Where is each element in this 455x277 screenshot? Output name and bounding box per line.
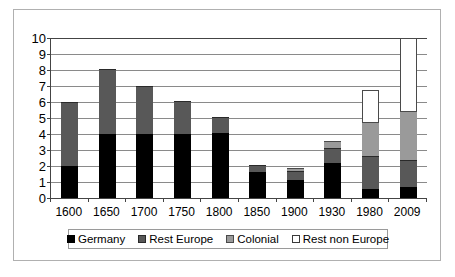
bar-segment-1650-rest-europe[interactable] <box>99 69 116 134</box>
stacked-bar-1850[interactable] <box>249 165 266 198</box>
bar-segment-1930-rest-europe[interactable] <box>324 148 341 163</box>
chart-legend: GermanyRest EuropeColonialRest non Europ… <box>68 229 388 249</box>
y-axis-tick-label: 9 <box>20 48 46 61</box>
x-axis-tick-mark <box>276 198 277 202</box>
x-axis-tick-label-1650: 1650 <box>88 204 126 222</box>
y-axis-tick-label: 6 <box>20 96 46 109</box>
germany-swatch <box>67 235 75 243</box>
y-axis-tick-label: 8 <box>20 64 46 77</box>
bar-segment-2009-germany[interactable] <box>400 187 417 198</box>
x-axis-tick-labels: 1600165017001750180018501900193019802009 <box>50 204 426 222</box>
legend-item-rest-non-europe[interactable]: Rest non Europe <box>292 233 389 245</box>
bar-slot-2009 <box>389 38 427 198</box>
bar-segment-1750-rest-europe[interactable] <box>174 101 191 134</box>
bar-segment-1900-germany[interactable] <box>287 180 304 198</box>
y-axis-tick-label: 0 <box>20 192 46 205</box>
x-axis-tick-label-1600: 1600 <box>50 204 88 222</box>
bar-segment-1930-germany[interactable] <box>324 163 341 198</box>
bar-segment-1850-rest-europe[interactable] <box>249 165 266 172</box>
legend-label: Rest Europe <box>149 233 213 245</box>
legend-item-rest-europe[interactable]: Rest Europe <box>138 233 213 245</box>
bar-slot-1650 <box>89 38 127 198</box>
x-axis-tick-mark <box>50 198 51 202</box>
x-axis-tick-label-1900: 1900 <box>276 204 314 222</box>
x-axis-tick-mark <box>200 198 201 202</box>
bar-segment-1800-rest-europe[interactable] <box>212 117 229 133</box>
stacked-bar-1930[interactable] <box>324 141 341 198</box>
bar-segment-1700-rest-europe[interactable] <box>136 86 153 134</box>
rest-europe-swatch <box>138 235 146 243</box>
x-axis-tick-mark <box>88 198 89 202</box>
x-axis-tick-mark <box>125 198 126 202</box>
bar-slot-1850 <box>239 38 277 198</box>
bar-segment-1600-rest-europe[interactable] <box>61 102 78 166</box>
bar-segment-1980-germany[interactable] <box>362 189 379 198</box>
bar-segment-2009-rest-non-europe[interactable] <box>400 38 417 111</box>
bar-slot-1600 <box>51 38 89 198</box>
y-axis-tick-label: 10 <box>20 32 46 45</box>
bar-slot-1930 <box>314 38 352 198</box>
bar-segment-2009-colonial[interactable] <box>400 111 417 161</box>
bar-segment-1750-germany[interactable] <box>174 134 191 198</box>
bar-segment-1900-rest-europe[interactable] <box>287 171 304 181</box>
x-axis-tick-label-1750: 1750 <box>163 204 201 222</box>
stacked-bar-1700[interactable] <box>136 86 153 198</box>
x-axis-tick-label-1800: 1800 <box>200 204 238 222</box>
plot-area <box>50 38 427 199</box>
x-axis-tick-label-1980: 1980 <box>351 204 389 222</box>
legend-item-germany[interactable]: Germany <box>67 233 125 245</box>
legend-item-colonial[interactable]: Colonial <box>226 233 279 245</box>
bar-segment-2009-rest-europe[interactable] <box>400 160 417 186</box>
bar-slot-1900 <box>277 38 315 198</box>
bar-segment-1600-germany[interactable] <box>61 166 78 198</box>
bar-segment-1650-germany[interactable] <box>99 134 116 198</box>
bar-segment-1980-rest-europe[interactable] <box>362 156 379 189</box>
bar-segment-1700-germany[interactable] <box>136 134 153 198</box>
chart-frame: 109876543210 160016501700175018001850190… <box>13 9 441 261</box>
legend-label: Colonial <box>237 233 279 245</box>
stacked-bar-2009[interactable] <box>400 38 417 198</box>
y-axis-tick-label: 7 <box>20 80 46 93</box>
bar-slot-1700 <box>126 38 164 198</box>
bar-segment-1800-germany[interactable] <box>212 133 229 198</box>
colonial-swatch <box>226 235 234 243</box>
y-axis-tick-label: 1 <box>20 176 46 189</box>
stacked-bar-1650[interactable] <box>99 69 116 198</box>
rest-non-europe-swatch <box>292 235 300 243</box>
bar-slot-1800 <box>201 38 239 198</box>
x-axis-tick-label-1930: 1930 <box>313 204 351 222</box>
y-axis-tick-labels: 109876543210 <box>20 38 46 206</box>
chart-plot-wrapper: 109876543210 160016501700175018001850190… <box>14 10 442 262</box>
x-axis-tick-mark <box>163 198 164 202</box>
bar-slot-1980 <box>352 38 390 198</box>
y-axis-tick-label: 5 <box>20 112 46 125</box>
stacked-bar-1800[interactable] <box>212 117 229 198</box>
x-axis-tick-mark <box>238 198 239 202</box>
bar-segment-1980-colonial[interactable] <box>362 122 379 156</box>
x-axis-tick-label-2009: 2009 <box>388 204 426 222</box>
x-axis-tick-mark <box>351 198 352 202</box>
y-axis-tick-label: 3 <box>20 144 46 157</box>
y-axis-tick-label: 4 <box>20 128 46 141</box>
stacked-bar-1900[interactable] <box>287 168 304 198</box>
x-axis-tick-marks <box>50 198 426 203</box>
stacked-bar-1980[interactable] <box>362 90 379 198</box>
x-axis-tick-label-1700: 1700 <box>125 204 163 222</box>
x-axis-tick-mark <box>313 198 314 202</box>
legend-label: Germany <box>78 233 125 245</box>
x-axis-tick-label-1850: 1850 <box>238 204 276 222</box>
x-axis-tick-mark <box>426 198 427 202</box>
legend-label: Rest non Europe <box>303 233 389 245</box>
stacked-bar-1750[interactable] <box>174 101 191 198</box>
bar-slot-1750 <box>164 38 202 198</box>
stacked-bar-1600[interactable] <box>61 102 78 198</box>
y-axis-tick-label: 2 <box>20 160 46 173</box>
bar-segment-1980-rest-non-europe[interactable] <box>362 90 379 122</box>
bar-series-group <box>51 38 427 198</box>
x-axis-tick-mark <box>388 198 389 202</box>
bar-segment-1850-germany[interactable] <box>249 172 266 198</box>
